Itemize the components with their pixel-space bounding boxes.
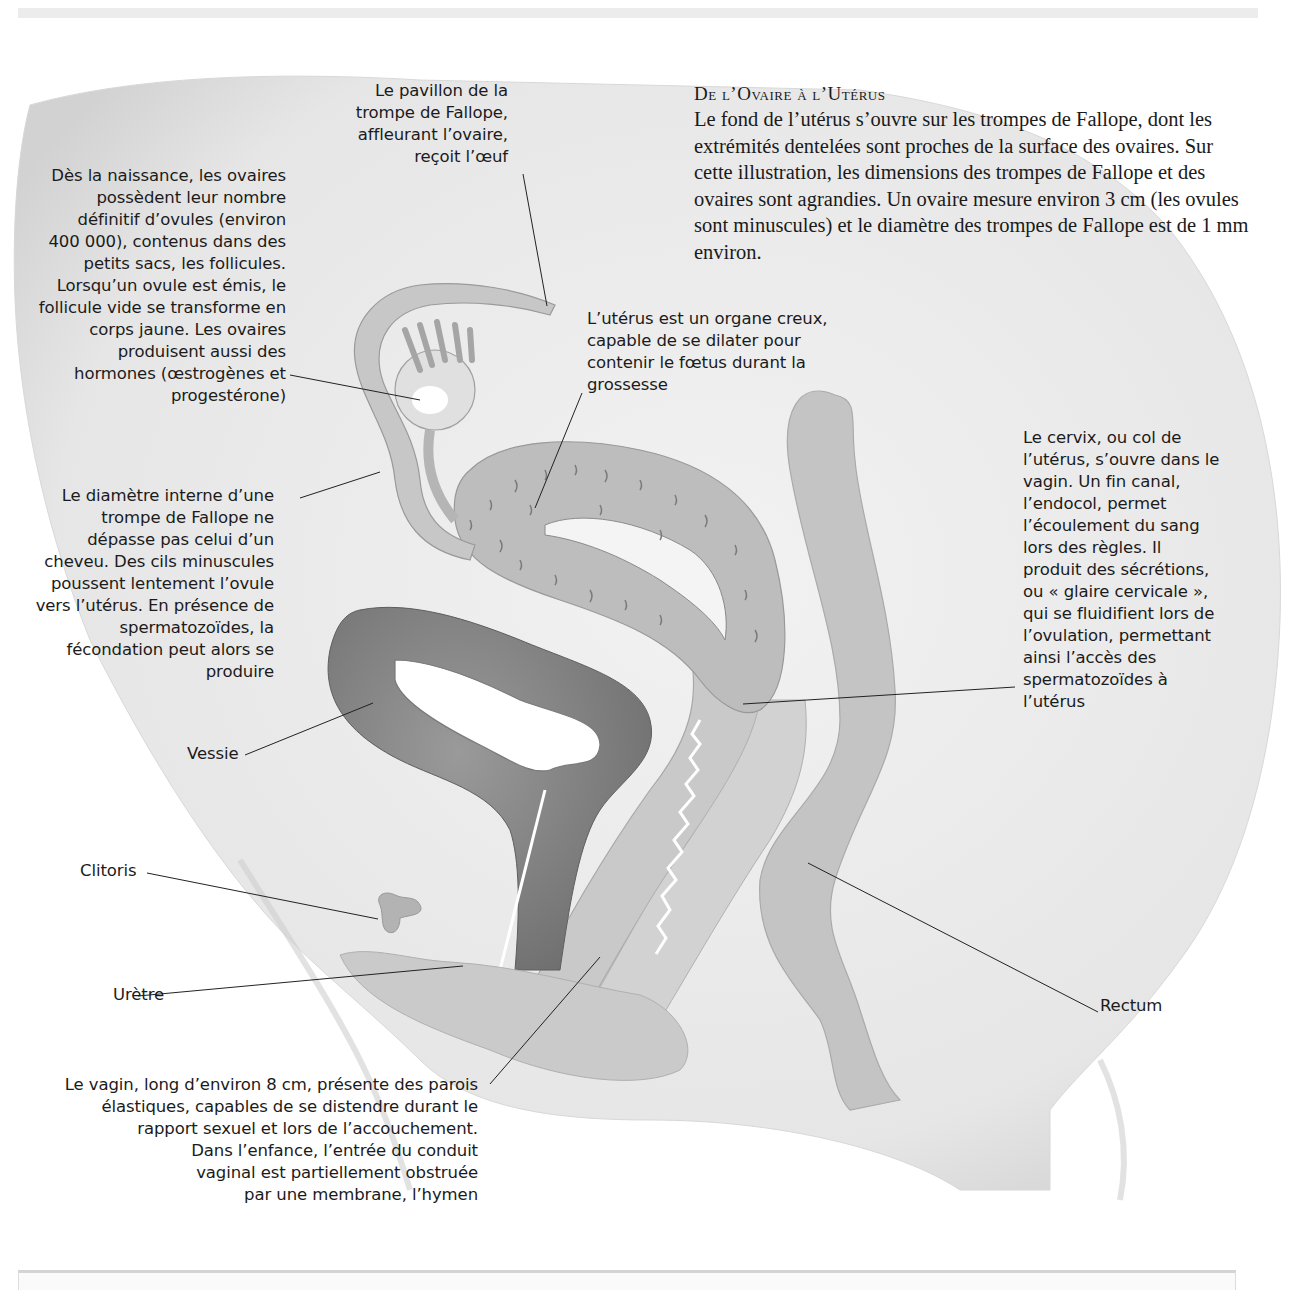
intro-block: De l’Ovaire à l’Utérus Le fond de l’utér… bbox=[694, 82, 1254, 265]
label-vessie: Vessie bbox=[187, 743, 239, 765]
label-clitoris: Clitoris bbox=[80, 860, 136, 882]
label-uterus: L’utérus est un organe creux, capable de… bbox=[587, 308, 867, 396]
label-vagin: Le vagin, long d’environ 8 cm, présente … bbox=[20, 1074, 478, 1206]
intro-body: Le fond de l’utérus s’ouvre sur les trom… bbox=[694, 106, 1254, 265]
intro-title: De l’Ovaire à l’Utérus bbox=[694, 82, 1254, 106]
label-trompe: Le diamètre interne d’une trompe de Fall… bbox=[0, 485, 274, 683]
label-rectum: Rectum bbox=[1100, 995, 1162, 1017]
bottom-box bbox=[18, 1270, 1236, 1290]
label-uretre: Urètre bbox=[113, 984, 164, 1006]
label-ovaires: Dès la naissance, les ovaires possèdent … bbox=[0, 165, 286, 407]
label-cervix: Le cervix, ou col de l’utérus, s’ouvre d… bbox=[1023, 427, 1263, 713]
label-pavillon: Le pavillon de la trompe de Fallope, aff… bbox=[330, 80, 508, 168]
